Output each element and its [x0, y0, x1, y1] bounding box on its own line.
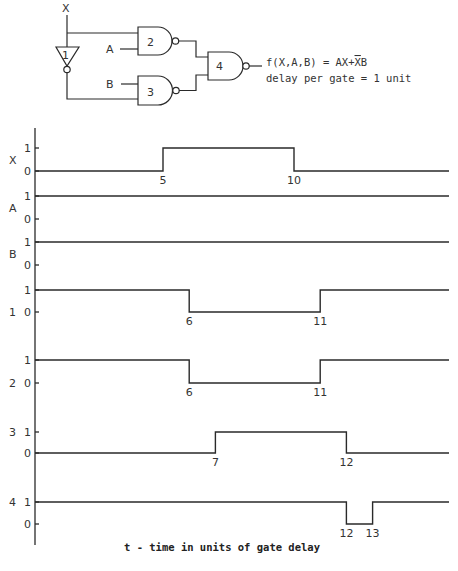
- signal-row-gate2: 102611: [9, 354, 449, 399]
- gate-1-label: 1: [62, 49, 69, 62]
- logic-circuit: X A B 1 2 3: [0, 0, 411, 105]
- signal-name-label: A: [9, 202, 17, 215]
- gate-2-label: 2: [147, 36, 154, 49]
- gate-4-nand: 4: [208, 52, 249, 80]
- input-label-b: B: [106, 78, 114, 91]
- signal-name-label: X: [9, 154, 17, 167]
- signal-name-label: B: [9, 248, 17, 261]
- level-label-low: 0: [24, 165, 31, 178]
- transition-time-label: 12: [339, 456, 353, 469]
- inverter-bubble: [64, 66, 70, 72]
- wire-gate2-to-gate4: [179, 41, 208, 57]
- function-tail: B: [361, 56, 367, 68]
- level-label-low: 0: [24, 306, 31, 319]
- gate-4-label: 4: [216, 60, 223, 73]
- transition-time-label: 11: [313, 386, 327, 399]
- level-label-high: 1: [24, 142, 31, 155]
- timing-chart: 10X51010A10B1016111026111037121041213 t …: [9, 128, 449, 553]
- signal-row-X: 10X510: [9, 142, 449, 187]
- nand-bubble: [243, 63, 249, 69]
- timing-diagram-figure: X A B 1 2 3: [0, 0, 458, 571]
- nand-bubble: [172, 38, 178, 44]
- transition-time-label: 12: [339, 527, 353, 540]
- level-label-high: 1: [24, 236, 31, 249]
- level-label-low: 0: [24, 518, 31, 531]
- gate-2-nand: 2: [138, 27, 179, 55]
- signal-name-label: 1: [9, 306, 16, 319]
- signal-name-label: 3: [9, 426, 16, 439]
- gate-3-label: 3: [147, 86, 154, 99]
- gate-3-nand: 3: [138, 76, 179, 105]
- level-label-high: 1: [24, 190, 31, 203]
- level-label-high: 1: [24, 426, 31, 439]
- signal-row-gate1: 101611: [9, 284, 449, 328]
- wire-inv-to-gate3: [67, 73, 138, 99]
- level-label-low: 0: [24, 447, 31, 460]
- transition-time-label: 13: [366, 527, 380, 540]
- waveform-gate2: [35, 360, 449, 383]
- signal-row-A: 10A: [9, 190, 449, 226]
- function-text: f(X,A,B) = AX+: [266, 56, 355, 68]
- signal-name-label: 4: [9, 496, 16, 509]
- transition-time-label: 7: [212, 456, 219, 469]
- input-label-x: X: [62, 2, 70, 15]
- wire-gate3-to-gate4: [179, 75, 208, 91]
- input-label-a: A: [106, 43, 114, 56]
- transition-time-label: 10: [287, 174, 301, 187]
- level-label-low: 0: [24, 259, 31, 272]
- transition-time-label: 5: [160, 174, 167, 187]
- gate-1-inverter: 1: [56, 47, 79, 73]
- transition-time-label: 6: [186, 386, 193, 399]
- level-label-low: 0: [24, 213, 31, 226]
- nand-bubble: [173, 87, 179, 93]
- waveform-X: [35, 148, 449, 171]
- waveform-gate1: [35, 290, 449, 312]
- transition-time-label: 11: [313, 315, 327, 328]
- signal-row-gate4: 1041213: [9, 496, 449, 540]
- level-label-high: 1: [24, 354, 31, 367]
- signal-name-label: 2: [9, 377, 16, 390]
- function-expression: f(X,A,B) = AX+XB: [266, 56, 367, 68]
- waveform-gate4: [35, 502, 449, 524]
- level-label-low: 0: [24, 377, 31, 390]
- waveform-gate3: [35, 432, 449, 453]
- level-label-high: 1: [24, 284, 31, 297]
- x-axis-label: t - time in units of gate delay: [124, 541, 321, 553]
- signal-row-gate3: 103712: [9, 426, 449, 469]
- transition-time-label: 6: [186, 315, 193, 328]
- level-label-high: 1: [24, 496, 31, 509]
- delay-note: delay per gate = 1 unit: [266, 72, 411, 84]
- signal-row-B: 10B: [9, 236, 449, 272]
